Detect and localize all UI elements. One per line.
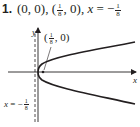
focus-leader-line <box>44 47 51 70</box>
focus-label: (18, 0) <box>44 31 69 45</box>
x-axis-label: x <box>133 74 137 86</box>
focus-label-fraction: 18 <box>49 32 54 45</box>
directrix-label-fraction: 18 <box>24 98 29 111</box>
focus-point <box>42 71 45 74</box>
parabola-curve <box>38 42 135 104</box>
y-axis-label: y <box>32 26 36 38</box>
directrix-label: x = −18 <box>4 98 30 111</box>
